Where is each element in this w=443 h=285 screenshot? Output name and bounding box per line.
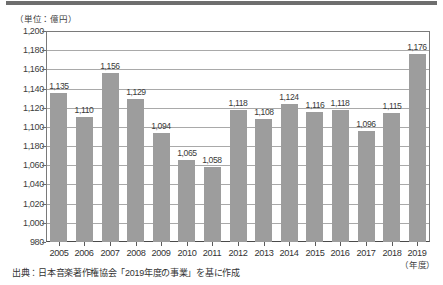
x-axis-tick-mark [289, 242, 290, 246]
y-axis-tick-label: 1,200 [23, 27, 44, 36]
x-axis-tick-mark [315, 242, 316, 246]
bar [127, 99, 144, 242]
bar [358, 131, 375, 242]
x-axis-tick-mark [238, 242, 239, 246]
source-note: 出典：日本音楽著作権協会「2019年度の事業」を基に作成 [12, 266, 240, 279]
x-axis-tick-mark [264, 242, 265, 246]
bar [409, 54, 426, 242]
y-axis-tick-label: 1,140 [23, 85, 44, 94]
bar [332, 110, 349, 242]
x-axis-tick-mark [136, 242, 137, 246]
bar [281, 104, 298, 242]
bar-value-label: 1,118 [323, 99, 357, 108]
bar-value-label: 1,094 [144, 122, 178, 131]
bar-value-label: 1,129 [119, 88, 153, 97]
bar-value-label: 1,096 [349, 120, 383, 129]
bar-value-label: 1,135 [42, 82, 76, 91]
y-axis-tick-label: 1,040 [23, 180, 44, 189]
x-axis-tick-mark [212, 242, 213, 246]
bar [383, 113, 400, 242]
x-axis-tick-mark [392, 242, 393, 246]
y-axis-tick-label: 1,000 [23, 219, 44, 228]
bar-value-label: 1,108 [247, 108, 281, 117]
bar-value-label: 1,110 [67, 106, 101, 115]
x-axis-tick-mark [110, 242, 111, 246]
bar-value-label: 1,156 [93, 62, 127, 71]
x-axis-unit-label: （年度） [400, 258, 435, 270]
y-axis-tick-label: 1,180 [23, 142, 44, 151]
bar [255, 119, 272, 242]
bar [230, 110, 247, 242]
x-axis-tick-mark [59, 242, 60, 246]
bar-value-label: 1,058 [195, 156, 229, 165]
x-axis-tick-mark [187, 242, 188, 246]
bar [76, 117, 93, 242]
bar [153, 133, 170, 242]
y-axis-tick-label: 1,120 [23, 104, 44, 113]
y-axis-tick-label: 1,100 [23, 123, 44, 132]
x-axis-tick-label: 2019 [402, 248, 432, 258]
x-axis-tick-mark [161, 242, 162, 246]
bar-value-label: 1,118 [221, 99, 255, 108]
bar [102, 73, 119, 242]
x-axis-tick-mark [417, 242, 418, 246]
y-axis-tick-mark [42, 242, 46, 243]
y-axis-unit-label: （単位：億円） [15, 12, 77, 24]
bar [204, 167, 221, 242]
x-axis-tick-mark [340, 242, 341, 246]
top-decorative-rule [6, 1, 437, 5]
y-axis-tick-label: 1,020 [23, 200, 44, 209]
bar [50, 93, 67, 242]
x-axis-tick-mark [366, 242, 367, 246]
bar-value-label: 1,176 [400, 43, 434, 52]
bar [306, 112, 323, 242]
y-axis-tick-label: 1,060 [23, 161, 44, 170]
y-axis-tick-label: 1,180 [23, 46, 44, 55]
x-axis-tick-mark [84, 242, 85, 246]
bar [178, 160, 195, 242]
y-axis-tick-label: 1,160 [23, 65, 44, 74]
bar-value-label: 1,115 [375, 102, 409, 111]
